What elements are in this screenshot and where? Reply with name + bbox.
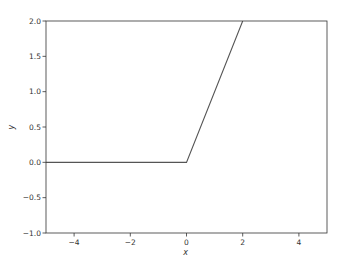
x-tick-label: 4 [297, 238, 302, 247]
x-tick-label: 0 [184, 238, 189, 247]
y-tick-label: 0.0 [29, 158, 41, 167]
axes-frame [46, 21, 327, 233]
x-axis-ticks: −4−2024 [69, 233, 302, 247]
y-tick-label: 0.5 [29, 123, 41, 132]
y-tick-label: 1.5 [29, 52, 41, 61]
y-tick-label: 1.0 [29, 87, 41, 96]
series-layer [46, 21, 243, 162]
y-axis-ticks: −1.0−0.50.00.51.01.52.0 [23, 17, 46, 238]
y-tick-label: 2.0 [29, 17, 41, 26]
y-tick-label: −0.5 [23, 193, 41, 202]
y-tick-label: −1.0 [23, 229, 41, 238]
x-tick-label: 2 [240, 238, 245, 247]
line-chart: −4−2024 −1.0−0.50.00.51.01.52.0 x y [0, 0, 340, 273]
x-tick-label: −4 [69, 238, 80, 247]
series-line-0 [46, 21, 243, 162]
y-axis-label: y [7, 124, 16, 130]
x-tick-label: −2 [125, 238, 136, 247]
x-axis-label: x [182, 248, 188, 257]
